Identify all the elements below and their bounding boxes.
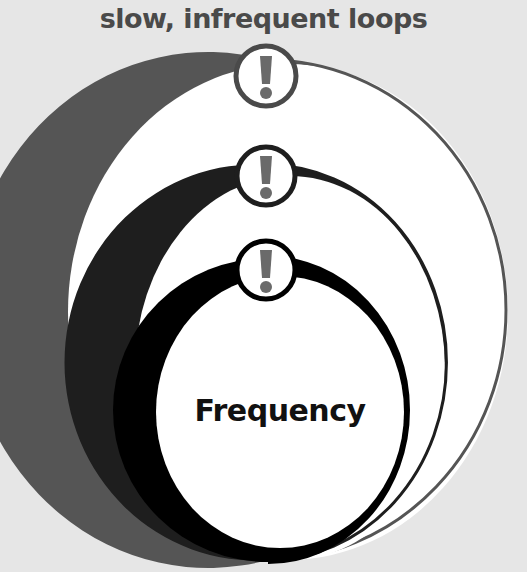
exclamation-icon [237,241,295,299]
exclamation-icon [237,147,295,205]
nested-loops-diagram [0,0,527,572]
center-label: Frequency [180,393,380,428]
exclamation-icon [236,46,296,106]
